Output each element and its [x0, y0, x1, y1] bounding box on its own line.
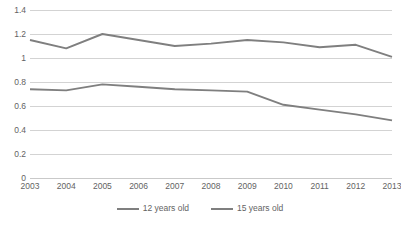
- legend-item[interactable]: 12 years old: [117, 204, 189, 213]
- y-axis-tick-label: 0.4: [0, 126, 26, 135]
- y-axis-tick-label: 1.4: [0, 6, 26, 15]
- x-axis-tick-label: 2003: [21, 182, 40, 191]
- x-axis-tick-label: 2011: [310, 182, 328, 191]
- x-axis-tick-label: 2005: [93, 182, 112, 191]
- series-line-15-years-old: [30, 34, 392, 57]
- x-axis-tick-label: 2010: [274, 182, 293, 191]
- legend-line-swatch-icon: [211, 208, 233, 210]
- x-axis-tick-label: 2012: [346, 182, 365, 191]
- x-axis-tick-label: 2006: [129, 182, 148, 191]
- y-axis-tick-label: 1: [0, 54, 26, 63]
- y-axis-tick-label: 1.2: [0, 30, 26, 39]
- chart-legend: 12 years old15 years old: [0, 204, 400, 213]
- series-line-12-years-old: [30, 84, 392, 120]
- x-axis-tick-label: 2008: [202, 182, 221, 191]
- y-axis-tick-label: 0.2: [0, 150, 26, 159]
- legend-line-swatch-icon: [117, 208, 139, 210]
- x-axis-tick-label: 2007: [165, 182, 184, 191]
- x-axis-tick-label: 2004: [57, 182, 76, 191]
- y-axis-tick-label: 0.6: [0, 102, 26, 111]
- plot-area: [30, 10, 392, 178]
- legend-label: 12 years old: [143, 204, 189, 213]
- gridline: [30, 178, 392, 179]
- x-axis-tick-label: 2013: [383, 182, 401, 191]
- legend-label: 15 years old: [237, 204, 283, 213]
- legend-item[interactable]: 15 years old: [211, 204, 283, 213]
- y-axis-tick-label: 0.8: [0, 78, 26, 87]
- series-lines: [30, 10, 392, 178]
- x-axis-tick-label: 2009: [238, 182, 257, 191]
